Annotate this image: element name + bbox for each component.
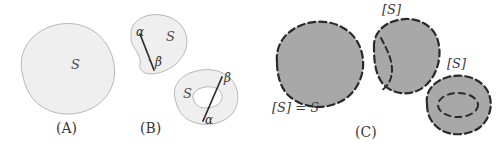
region-s-blob bbox=[21, 23, 114, 114]
closure-hole-blob bbox=[427, 76, 491, 135]
label-s-panel-b-upper: S bbox=[166, 29, 175, 44]
panel-caption-c: (C) bbox=[355, 124, 377, 140]
label-beta-upper: β bbox=[155, 55, 162, 69]
panel-caption-a: (A) bbox=[56, 120, 77, 136]
label-closure-equals-s: [S] = S bbox=[272, 100, 319, 115]
closure-slit-blob bbox=[374, 19, 440, 93]
panel-caption-b: (B) bbox=[140, 120, 161, 136]
label-beta-lower: β bbox=[224, 71, 231, 85]
label-s-panel-b-lower: S bbox=[183, 86, 192, 101]
topology-closure-figure: S (A) α β S β α S (B) [S] = S [S] [S] (C… bbox=[0, 0, 502, 146]
label-alpha-lower: α bbox=[205, 113, 213, 127]
inner-hole-outline bbox=[193, 87, 222, 108]
label-s-panel-a: S bbox=[71, 57, 80, 72]
label-closure-middle: [S] bbox=[382, 2, 401, 17]
label-alpha-upper: α bbox=[136, 25, 144, 39]
label-closure-right: [S] bbox=[447, 56, 466, 71]
closure-big-blob bbox=[277, 22, 363, 107]
